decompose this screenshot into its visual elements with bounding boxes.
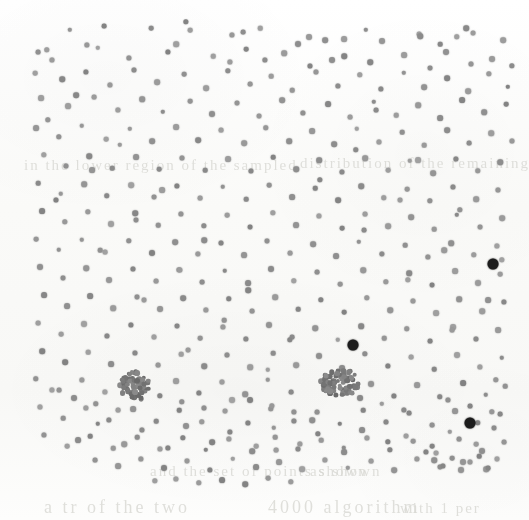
data-point — [93, 458, 98, 463]
data-point — [440, 463, 445, 468]
data-point — [293, 166, 299, 172]
data-point — [307, 63, 312, 68]
data-point — [33, 376, 38, 381]
data-point — [179, 399, 184, 404]
data-point — [71, 395, 77, 401]
data-point — [367, 59, 373, 65]
data-point — [441, 247, 447, 253]
data-point — [139, 427, 144, 432]
data-point — [110, 166, 115, 171]
data-point — [201, 363, 207, 369]
data-point — [295, 41, 301, 47]
data-point — [102, 24, 107, 29]
data-point — [428, 339, 433, 344]
data-point — [157, 167, 162, 172]
data-point — [486, 71, 491, 76]
data-point — [288, 479, 293, 484]
data-point — [444, 127, 450, 133]
data-point — [96, 422, 100, 426]
data-point — [465, 88, 471, 94]
data-point — [357, 240, 361, 244]
data-point — [276, 459, 282, 465]
data-point — [318, 297, 323, 302]
data-point — [266, 476, 271, 481]
data-point — [84, 42, 89, 47]
data-point — [438, 42, 443, 47]
data-point — [467, 459, 472, 464]
data-point — [339, 169, 344, 174]
data-point — [81, 181, 87, 187]
data-point — [241, 252, 247, 258]
data-point — [415, 102, 421, 108]
data-point — [316, 213, 321, 218]
data-point — [157, 446, 162, 451]
data-point — [126, 238, 131, 243]
data-point — [173, 124, 179, 130]
data-point — [271, 351, 276, 356]
data-point — [209, 111, 215, 117]
data-point — [434, 451, 439, 456]
data-point — [154, 79, 160, 85]
data-point — [268, 266, 274, 272]
data-point — [242, 481, 248, 487]
data-point — [272, 294, 278, 300]
data-point — [346, 466, 350, 470]
data-point — [403, 243, 408, 248]
data-point — [474, 442, 479, 447]
data-point — [139, 96, 145, 102]
data-point — [156, 223, 161, 228]
data-point — [289, 194, 295, 200]
data-point — [128, 322, 133, 327]
data-point — [177, 408, 182, 413]
dense-point-cluster — [120, 372, 150, 400]
data-point — [103, 250, 108, 255]
data-point — [394, 113, 399, 118]
data-point — [353, 147, 358, 152]
data-point — [266, 368, 270, 372]
data-point — [290, 88, 295, 93]
data-point — [56, 134, 61, 139]
data-point — [149, 138, 155, 144]
data-point — [86, 153, 92, 159]
data-point — [85, 209, 90, 214]
data-point — [270, 210, 275, 215]
data-point — [156, 363, 161, 368]
data-point — [75, 437, 81, 443]
data-point — [479, 308, 485, 314]
data-point — [227, 429, 232, 434]
data-point — [458, 467, 464, 473]
data-point — [359, 427, 365, 433]
data-point — [333, 253, 339, 259]
data-point — [201, 223, 206, 228]
data-point — [404, 434, 409, 439]
data-point — [86, 350, 91, 355]
data-point — [387, 447, 392, 452]
data-point — [400, 130, 405, 135]
data-point — [152, 335, 157, 340]
data-point — [340, 226, 345, 231]
data-point — [250, 309, 255, 314]
data-point — [243, 336, 248, 341]
data-point — [289, 390, 294, 395]
data-point — [59, 76, 65, 82]
data-point — [385, 363, 390, 368]
data-point — [266, 378, 270, 382]
data-point — [405, 277, 410, 282]
data-point — [296, 307, 301, 312]
data-point — [104, 193, 109, 198]
data-point — [331, 141, 337, 147]
data-point — [131, 67, 136, 72]
data-point — [245, 280, 251, 286]
data-point — [358, 323, 364, 329]
data-point — [372, 100, 376, 104]
data-point — [500, 356, 504, 360]
data-point — [322, 457, 327, 462]
data-point — [271, 155, 276, 160]
data-point — [364, 435, 369, 440]
data-point — [157, 306, 163, 312]
data-point — [499, 215, 505, 221]
data-point — [225, 213, 230, 218]
data-point — [235, 101, 240, 106]
cluster-data-point — [344, 378, 350, 384]
data-point — [247, 397, 253, 403]
